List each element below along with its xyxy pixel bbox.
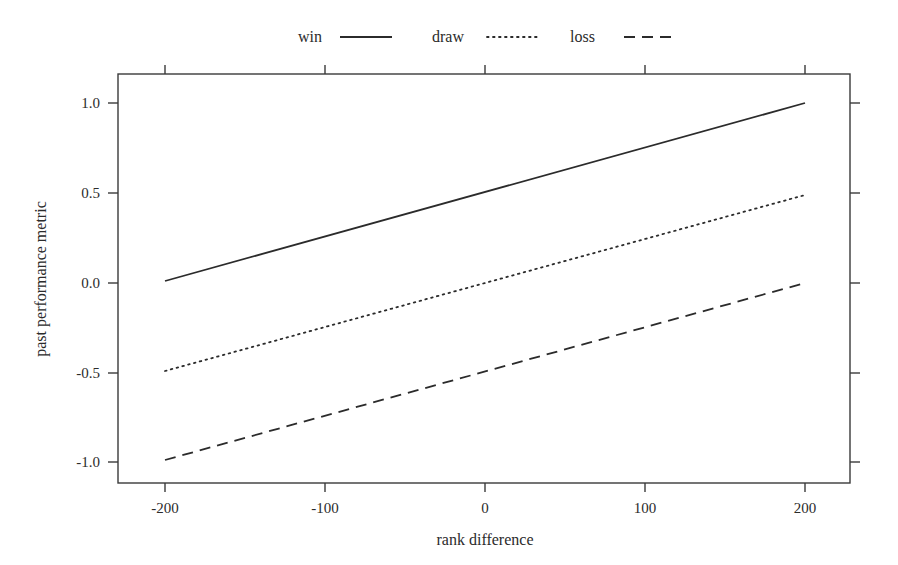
y-axis-ticks-left <box>108 103 118 462</box>
series-line-loss <box>165 283 805 460</box>
x-tick-label-2: 0 <box>481 500 489 516</box>
chart-series-group <box>165 103 805 460</box>
y-tick-label-3: -0.5 <box>76 365 100 381</box>
legend-label-loss: loss <box>570 28 595 45</box>
x-axis-tick-labels: -200 -100 0 100 200 <box>151 500 816 516</box>
legend-label-win: win <box>298 28 322 45</box>
chart-figure: win draw loss -200 -100 <box>0 0 898 565</box>
x-axis-ticks-bottom <box>165 483 805 492</box>
chart-legend: win draw loss <box>298 28 676 45</box>
y-tick-label-4: -1.0 <box>76 454 100 470</box>
y-tick-label-1: 0.5 <box>81 185 100 201</box>
y-tick-label-2: 0.0 <box>81 275 100 291</box>
line-chart-svg: win draw loss -200 -100 <box>0 0 898 565</box>
legend-label-draw: draw <box>432 28 464 45</box>
plot-frame <box>118 74 850 483</box>
y-axis-tick-labels: 1.0 0.5 0.0 -0.5 -1.0 <box>76 95 100 470</box>
x-tick-label-3: 100 <box>634 500 657 516</box>
x-axis-title: rank difference <box>437 531 534 548</box>
x-tick-label-4: 200 <box>794 500 817 516</box>
x-axis-ticks-top <box>165 65 805 74</box>
x-tick-label-0: -200 <box>151 500 179 516</box>
series-line-draw <box>165 195 805 371</box>
y-tick-label-0: 1.0 <box>81 95 100 111</box>
y-axis-title: past performance metric <box>32 201 50 356</box>
x-tick-label-1: -100 <box>311 500 339 516</box>
series-line-win <box>165 103 805 281</box>
y-axis-ticks-right <box>850 103 860 462</box>
